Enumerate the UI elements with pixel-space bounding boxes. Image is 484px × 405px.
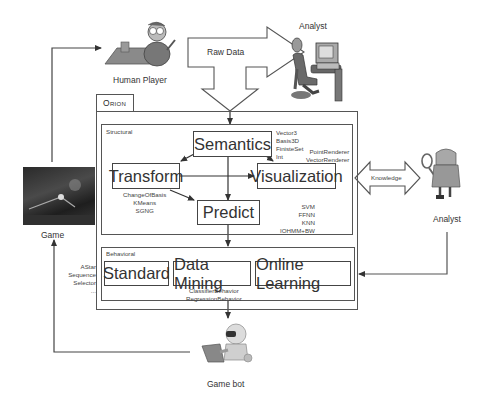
raw-data-label: Raw Data <box>207 47 244 57</box>
game-bot-illustration <box>200 322 256 368</box>
game-screenshot <box>23 167 95 225</box>
visualization-module[interactable]: Visualization <box>257 163 336 189</box>
structural-label: Structural <box>106 128 132 136</box>
semantics-label: Semantics <box>194 135 271 154</box>
orion-tab: Orion <box>96 94 134 112</box>
online-learning-module[interactable]: Online Learning <box>255 261 351 286</box>
predict-module[interactable]: Predict <box>197 200 260 225</box>
human-player-icon <box>103 20 183 68</box>
visualization-annotation: PointRenderer VectorRenderer <box>306 148 349 164</box>
knowledge-label: Knowledge <box>371 174 402 182</box>
game-label: Game <box>41 230 64 240</box>
behavioral-label: Behavioral <box>106 250 135 258</box>
predict-label: Predict <box>203 203 254 222</box>
analyst-top-illustration <box>283 33 353 105</box>
game-scene-icon <box>23 167 95 225</box>
analyst-to-online-learning-arrow <box>359 232 447 274</box>
semantics-annotation: Vector3 Basis3D FinisteSet Int <box>276 129 304 161</box>
game-to-human-arrow <box>52 48 101 162</box>
online-learning-label: Online Learning <box>256 255 350 293</box>
human-player-label: Human Player <box>113 75 167 85</box>
semantics-module[interactable]: Semantics <box>193 131 272 157</box>
analyst-right-illustration <box>418 145 468 203</box>
standard-label: Standard <box>103 264 170 283</box>
detective-magnifier-icon <box>418 145 468 203</box>
game-bot-label: Game bot <box>207 379 244 389</box>
analyst-top-label: Analyst <box>299 21 327 31</box>
predict-annotation: SVM FFNN KNN IOHMM+BW <box>280 203 315 235</box>
transform-annotation: ChangeOfBasis KMeans SGNG <box>123 191 166 215</box>
orion-title: Orion <box>103 98 126 108</box>
transform-label: Transform <box>109 167 184 186</box>
standard-annotation: AStar Sequence Selector ... <box>66 263 96 295</box>
standard-module[interactable]: Standard <box>104 261 169 286</box>
visualization-label: Visualization <box>250 167 342 186</box>
human-player-illustration <box>103 20 183 68</box>
analyst-right-label: Analyst <box>433 214 461 224</box>
data-mining-module[interactable]: Data Mining <box>173 261 251 286</box>
data-mining-annotation: ClassifierBehavior RegressionBehavior <box>186 287 242 303</box>
transform-module[interactable]: Transform <box>112 163 180 189</box>
analyst-at-computer-icon <box>283 33 353 105</box>
robot-laptop-icon <box>200 322 256 368</box>
